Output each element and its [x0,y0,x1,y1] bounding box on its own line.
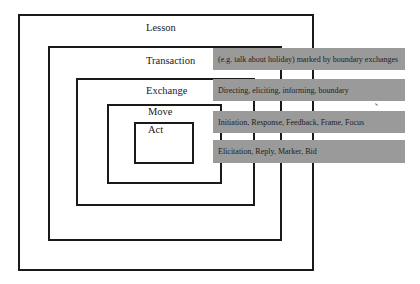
label-act: Act [148,124,163,135]
description-text-exchange: Directing, eliciting, informing, boundar… [218,86,349,95]
box-act [134,122,194,164]
description-bar-move: Initiation, Response, Feedback, Frame, F… [213,111,405,133]
label-lesson: Lesson [146,22,176,33]
description-text-move: Initiation, Response, Feedback, Frame, F… [218,118,364,127]
description-bar-exchange: Directing, eliciting, informing, boundar… [213,79,405,101]
description-bar-transaction: (e.g. talk about holiday) marked by boun… [213,48,405,70]
label-exchange: Exchange [146,85,187,96]
description-text-act: Elicitation, Reply, Marker, Bid [218,147,317,156]
label-move: Move [148,106,173,117]
stray-mark [375,103,378,106]
description-text-transaction: (e.g. talk about holiday) marked by boun… [218,55,398,64]
label-transaction: Transaction [146,55,195,66]
description-bar-act: Elicitation, Reply, Marker, Bid [213,140,405,163]
